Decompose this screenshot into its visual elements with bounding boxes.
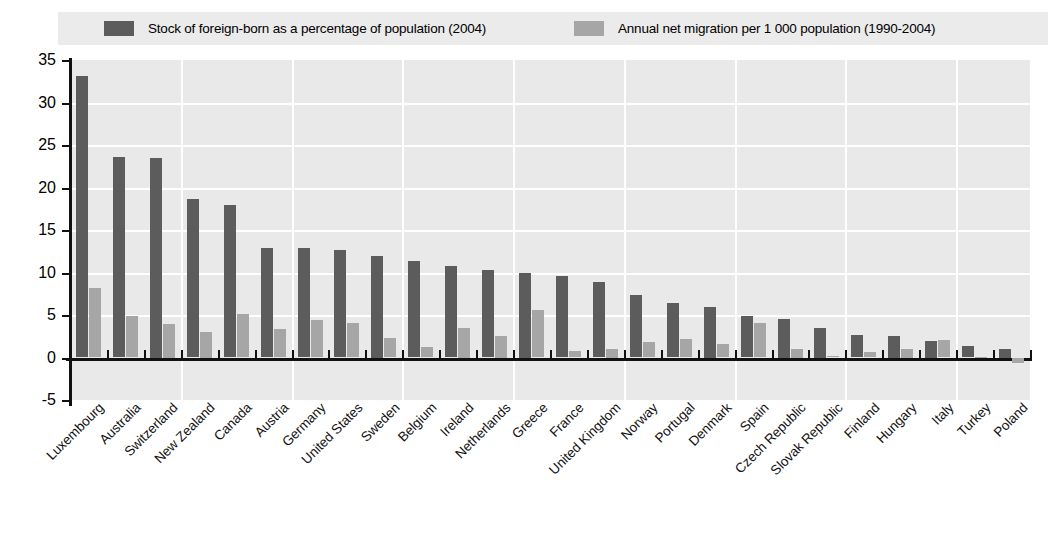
bar-switzerland-series-1 bbox=[150, 158, 162, 358]
legend-swatch-series-1 bbox=[104, 21, 134, 36]
bar-turkey-series-2 bbox=[975, 357, 987, 358]
bar-canada-series-2 bbox=[237, 314, 249, 357]
bar-italy-series-1 bbox=[925, 341, 937, 358]
x-tick-3 bbox=[181, 350, 183, 358]
x-tick-1 bbox=[107, 350, 109, 358]
bar-spain-series-2 bbox=[754, 323, 766, 358]
bar-finland-series-1 bbox=[851, 335, 863, 358]
x-tick-19 bbox=[772, 350, 774, 358]
x-tick-15 bbox=[624, 350, 626, 358]
x-tick-18 bbox=[735, 350, 737, 358]
bar-sweden-series-1 bbox=[371, 256, 383, 358]
y-tick-15 bbox=[62, 230, 71, 232]
x-label-belgium: Belgium bbox=[395, 400, 440, 445]
bar-netherlands-series-2 bbox=[495, 336, 507, 357]
x-tick-25 bbox=[993, 350, 995, 358]
bar-france-series-1 bbox=[556, 276, 568, 358]
bar-germany-series-1 bbox=[298, 248, 310, 358]
y-tick-label-30: 30 bbox=[12, 94, 56, 112]
legend-label-series-1: Stock of foreign-born as a percentage of… bbox=[148, 21, 486, 36]
bar-hungary-series-1 bbox=[888, 336, 900, 357]
legend-item-annual-net-migration: Annual net migration per 1 000 populatio… bbox=[574, 12, 935, 45]
y-tick-0 bbox=[62, 358, 71, 360]
bar-australia-series-2 bbox=[126, 316, 138, 358]
bar-netherlands-series-1 bbox=[482, 270, 494, 358]
x-tick-20 bbox=[808, 350, 810, 358]
x-label-sweden: Sweden bbox=[358, 400, 403, 445]
x-label-greece: Greece bbox=[509, 400, 550, 441]
gridline-horizontal bbox=[70, 230, 1030, 232]
bar-austria-series-1 bbox=[261, 248, 273, 358]
bar-united-kingdom-series-1 bbox=[593, 282, 605, 358]
x-tick-9 bbox=[402, 350, 404, 358]
x-axis-labels: LuxembourgAustraliaSwitzerlandNew Zealan… bbox=[70, 400, 1059, 543]
bar-new-zealand-series-1 bbox=[187, 199, 199, 357]
bar-greece-series-1 bbox=[519, 273, 531, 358]
y-tick-label--5: -5 bbox=[12, 391, 56, 409]
y-axis-labels: 35302520151050-5 bbox=[12, 60, 56, 400]
bar-ireland-series-1 bbox=[445, 266, 457, 358]
bar-denmark-series-1 bbox=[704, 307, 716, 358]
y-tick-5 bbox=[62, 315, 71, 317]
bar-spain-series-1 bbox=[741, 316, 753, 358]
bar-united-kingdom-series-2 bbox=[606, 349, 618, 358]
bar-norway-series-2 bbox=[643, 342, 655, 357]
x-tick-13 bbox=[550, 350, 552, 358]
bar-slovak-republic-series-2 bbox=[827, 356, 839, 358]
legend-swatch-series-2 bbox=[574, 21, 604, 36]
x-tick-4 bbox=[218, 350, 220, 358]
x-label-poland: Poland bbox=[990, 400, 1030, 440]
x-label-hungary: Hungary bbox=[873, 400, 919, 446]
x-tick-5 bbox=[255, 350, 257, 358]
bar-portugal-series-1 bbox=[667, 303, 679, 357]
x-label-turkey: Turkey bbox=[954, 400, 993, 439]
x-label-spain: Spain bbox=[737, 400, 772, 435]
gridline-horizontal bbox=[70, 145, 1030, 147]
bar-czech-republic-series-1 bbox=[778, 319, 790, 357]
x-tick-7 bbox=[328, 350, 330, 358]
y-tick-label-0: 0 bbox=[12, 349, 56, 367]
bar-czech-republic-series-2 bbox=[791, 349, 803, 358]
bar-norway-series-1 bbox=[630, 295, 642, 358]
zero-baseline bbox=[66, 358, 1032, 361]
y-tick-label-10: 10 bbox=[12, 264, 56, 282]
bar-luxembourg-series-1 bbox=[76, 76, 88, 357]
bar-switzerland-series-2 bbox=[163, 324, 175, 358]
bar-united-states-series-2 bbox=[347, 323, 359, 358]
bar-denmark-series-2 bbox=[717, 344, 729, 358]
x-tick-0 bbox=[70, 350, 72, 358]
bar-portugal-series-2 bbox=[680, 339, 692, 358]
bar-austria-series-2 bbox=[274, 329, 286, 358]
legend-label-series-2: Annual net migration per 1 000 populatio… bbox=[618, 21, 935, 36]
bar-slovak-republic-series-1 bbox=[814, 328, 826, 358]
bar-hungary-series-2 bbox=[901, 349, 913, 358]
bar-canada-series-1 bbox=[224, 205, 236, 357]
gridline-horizontal bbox=[70, 188, 1030, 190]
x-tick-2 bbox=[144, 350, 146, 358]
bar-poland-series-2 bbox=[1012, 358, 1024, 363]
x-label-luxembourg: Luxembourg bbox=[44, 400, 107, 463]
legend-item-stock-foreign-born: Stock of foreign-born as a percentage of… bbox=[104, 12, 486, 45]
gridline-horizontal bbox=[70, 273, 1030, 275]
bar-belgium-series-2 bbox=[421, 347, 433, 357]
y-tick-label-15: 15 bbox=[12, 221, 56, 239]
bar-germany-series-2 bbox=[311, 320, 323, 357]
y-tick-25 bbox=[62, 145, 71, 147]
y-tick-label-25: 25 bbox=[12, 136, 56, 154]
migration-bar-chart: Stock of foreign-born as a percentage of… bbox=[0, 0, 1059, 543]
x-tick-14 bbox=[587, 350, 589, 358]
bar-new-zealand-series-2 bbox=[200, 332, 212, 358]
y-tick-label-35: 35 bbox=[12, 51, 56, 69]
y-tick-label-5: 5 bbox=[12, 306, 56, 324]
x-tick-16 bbox=[661, 350, 663, 358]
x-label-canada: Canada bbox=[211, 400, 255, 444]
bar-united-states-series-1 bbox=[334, 250, 346, 357]
x-tick-12 bbox=[513, 350, 515, 358]
y-tick-35 bbox=[62, 60, 71, 62]
bar-greece-series-2 bbox=[532, 310, 544, 358]
gridline-horizontal bbox=[70, 315, 1030, 317]
y-tick-20 bbox=[62, 188, 71, 190]
y-tick-30 bbox=[62, 103, 71, 105]
x-tick-6 bbox=[292, 350, 294, 358]
x-tick-11 bbox=[476, 350, 478, 358]
